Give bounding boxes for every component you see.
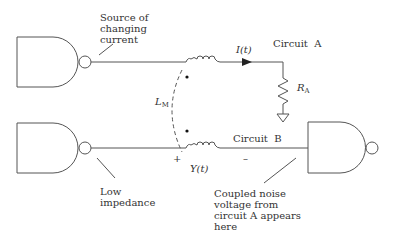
resistor-subscript: A — [305, 87, 310, 95]
resistor-a-icon — [278, 62, 288, 114]
inversion-bubble-a — [79, 56, 91, 68]
inductor-b-icon — [186, 142, 220, 148]
inductor-a-icon — [186, 56, 220, 62]
polarity-dot-b — [185, 129, 188, 132]
nand-gate-receiver-b — [308, 122, 366, 173]
polarity-dot-a — [185, 75, 188, 78]
label-coupled-noise: Coupled noise voltage from circuit A app… — [214, 188, 301, 232]
label-circuit-b: Circuit B — [233, 133, 282, 144]
inversion-bubble-b — [79, 142, 91, 154]
ground-icon — [277, 114, 289, 122]
label-current: I(t) — [236, 44, 252, 55]
current-arrow-icon — [242, 58, 252, 66]
label-minus: – — [243, 153, 248, 164]
leader-source — [99, 44, 113, 55]
mutual-inductance-arc — [172, 70, 182, 152]
label-mutual-inductance: LM — [155, 96, 169, 111]
nand-gate-driver-a — [17, 37, 78, 87]
schematic-canvas — [0, 0, 398, 238]
leader-low-impedance — [97, 158, 115, 178]
label-circuit-a: Circuit A — [273, 38, 321, 49]
label-source-of-changing-current: Source of changing current — [100, 12, 149, 45]
leader-coupled — [264, 158, 296, 183]
mutual-symbol: L — [155, 96, 162, 107]
label-voltage: Y(t) — [190, 163, 208, 174]
label-low-impedance: Low impedance — [100, 186, 155, 208]
label-plus: + — [173, 153, 181, 164]
nand-gate-driver-b — [17, 123, 78, 173]
mutual-subscript: M — [162, 101, 169, 109]
label-resistor-a: RA — [297, 82, 310, 97]
resistor-symbol: R — [297, 82, 305, 93]
inversion-bubble-receiver — [366, 142, 378, 154]
